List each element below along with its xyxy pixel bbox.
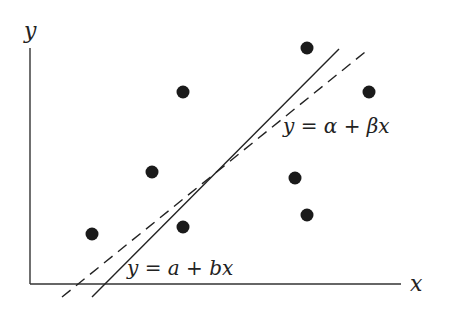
data-point bbox=[177, 221, 190, 234]
data-points bbox=[86, 42, 376, 241]
data-point bbox=[177, 86, 190, 99]
data-point bbox=[289, 172, 302, 185]
data-point bbox=[363, 86, 376, 99]
regression-diagram: y x y = α + βx y = a + bx bbox=[0, 0, 452, 314]
x-axis-label: x bbox=[410, 271, 423, 296]
true-line-label: y = α + βx bbox=[282, 114, 390, 138]
data-point bbox=[301, 209, 314, 222]
diagram-svg: y x y = α + βx y = a + bx bbox=[0, 0, 452, 314]
data-point bbox=[146, 166, 159, 179]
y-axis-label: y bbox=[23, 18, 37, 43]
data-point bbox=[301, 42, 314, 55]
fitted-line-label: y = a + bx bbox=[126, 256, 233, 280]
data-point bbox=[86, 228, 99, 241]
